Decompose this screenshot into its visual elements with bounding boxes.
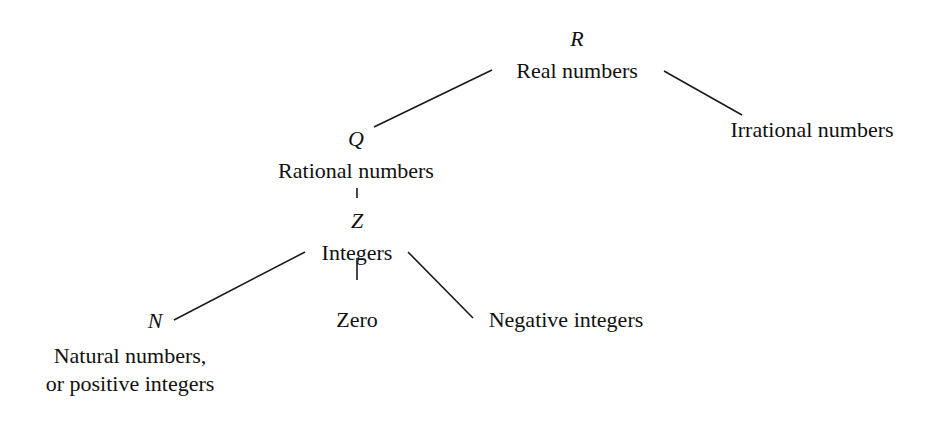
negative-integers-label: Negative integers [489,309,644,331]
edge-integers-natural [174,252,305,320]
edge-real-irrational [664,71,742,115]
natural-symbol: N [148,310,163,332]
real-numbers-label: Real numbers [516,60,638,82]
natural-numbers-line2: or positive integers [46,370,215,398]
edge-real-rational [374,70,492,127]
natural-numbers-line1: Natural numbers, [46,342,215,370]
rational-numbers-label: Rational numbers [278,160,434,182]
real-symbol: R [570,28,583,50]
integers-symbol: Z [351,210,363,232]
integers-label: Integers [322,242,393,264]
rational-symbol: Q [348,128,364,150]
zero-label: Zero [336,309,378,331]
natural-numbers-label: Natural numbers, or positive integers [46,342,215,398]
irrational-numbers-label: Irrational numbers [730,119,893,141]
edge-integers-negative [408,252,473,318]
